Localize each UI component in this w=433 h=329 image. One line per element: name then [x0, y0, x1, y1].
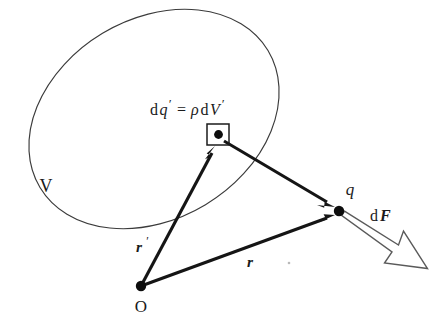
vector-r-prime-label-letter: r	[136, 238, 143, 255]
origin-point-dot	[136, 281, 146, 291]
vector-r-prime-label: r ′	[136, 234, 149, 255]
equation-q: q	[160, 101, 168, 119]
source-element-equation: d q ′ = ρ d V ′	[150, 96, 224, 119]
source-element-dot	[214, 130, 223, 139]
equation-prime-2: ′	[221, 96, 224, 111]
origin-label: O	[135, 297, 147, 316]
equation-rho: ρ	[190, 101, 199, 119]
equation-equals: =	[177, 101, 186, 118]
equation-d-2: d	[201, 101, 209, 118]
charge-distribution-figure: V O q d q ′ = ρ d V ′ r ′ r d F	[0, 0, 433, 329]
vector-r	[141, 214, 335, 286]
volume-region-label: V	[40, 176, 53, 196]
vector-separation-arrowhead	[317, 202, 335, 208]
equation-prime-1: ′	[168, 96, 171, 111]
force-label-d: d	[370, 207, 378, 224]
force-label: d F	[370, 207, 391, 224]
equation-d-1: d	[150, 101, 158, 118]
volume-region-outline	[0, 0, 320, 273]
charge-label: q	[346, 180, 355, 199]
diagram-canvas: V O q d q ′ = ρ d V ′ r ′ r d F	[0, 0, 433, 329]
vector-separation-shaft	[224, 141, 327, 202]
force-label-F: F	[379, 207, 391, 224]
print-speck	[288, 262, 291, 265]
vector-r-prime-shaft	[141, 153, 212, 286]
charge-point-dot	[334, 206, 344, 216]
vector-r-prime-label-prime: ′	[146, 234, 149, 248]
vector-r-label: r	[247, 253, 254, 270]
vector-r-prime	[141, 146, 215, 286]
vector-separation	[224, 141, 335, 208]
vector-r-shaft	[141, 218, 327, 286]
